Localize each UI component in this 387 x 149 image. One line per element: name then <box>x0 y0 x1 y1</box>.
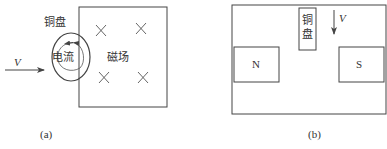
north-pole-label: N <box>252 58 260 70</box>
copper-disc-label: 铜盘 <box>44 15 66 29</box>
copper-disc-label-line1: 铜 <box>302 13 313 27</box>
caption-a: (a) <box>40 128 53 141</box>
field-cross-icon <box>138 72 148 83</box>
diagram-canvas: 铜盘 电流 磁场 V (a) 铜 盘 V N S (b) <box>0 0 387 149</box>
velocity-label: V <box>339 12 347 24</box>
field-cross-icon <box>136 23 146 34</box>
caption-b: (b) <box>308 128 321 141</box>
current-arrow-icon <box>67 43 73 44</box>
field-cross-icon <box>99 72 109 83</box>
current-label: 电流 <box>52 50 74 64</box>
figure-b: 铜 盘 V N S (b) <box>232 5 386 141</box>
figure-a: 铜盘 电流 磁场 V (a) <box>5 7 167 141</box>
field-label: 磁场 <box>107 50 129 64</box>
south-pole-label: S <box>356 58 362 70</box>
velocity-label: V <box>14 56 22 68</box>
copper-disc-label-line2: 盘 <box>302 27 313 41</box>
field-cross-icon <box>96 25 106 36</box>
